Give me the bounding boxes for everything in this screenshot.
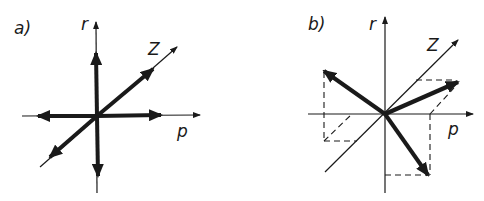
- p-axis-label: p: [176, 121, 188, 141]
- panel-b-label: b): [308, 14, 325, 34]
- arrow-z-negative: [50, 116, 97, 157]
- arrow-lower-right: [385, 114, 428, 175]
- r-axis-label: r: [81, 14, 89, 34]
- arrow-upper-left: [324, 71, 385, 114]
- panel-a-label: a): [14, 18, 31, 38]
- r-axis-label: r: [369, 14, 377, 34]
- z-axis-label: Z: [147, 39, 160, 59]
- arrow-z-positive: [97, 69, 153, 116]
- arrow-right-raised: [385, 82, 458, 114]
- z-axis-label: Z: [426, 35, 439, 55]
- arrow-right: [97, 115, 161, 116]
- arrow-down: [97, 116, 98, 176]
- diagram-svg: a) r Z p b) r Z p: [0, 0, 484, 201]
- arrow-up: [96, 53, 97, 116]
- panel-b: b) r Z p: [308, 14, 473, 193]
- panel-a: a) r Z p: [14, 14, 200, 193]
- p-axis-label: p: [447, 119, 459, 139]
- diagram-canvas: a) r Z p b) r Z p: [0, 0, 484, 201]
